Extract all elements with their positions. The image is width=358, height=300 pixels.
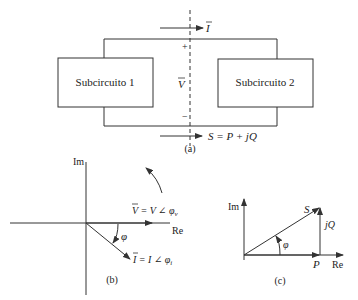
im-axis-label: Im xyxy=(73,156,84,167)
caption-b: (b) xyxy=(106,274,118,286)
caption-c: (c) xyxy=(274,275,285,287)
im-axis-label-c: Im xyxy=(228,201,239,212)
p-label: P xyxy=(312,258,320,270)
minus-sign: − xyxy=(182,111,188,122)
voltage-phasor-label: V = V ∠ φv xyxy=(132,205,179,218)
diagram-canvas: Subcircuito 1 Subcircuito 2 I + V − S = … xyxy=(0,0,358,300)
jq-label: jQ xyxy=(323,219,336,230)
voltage-label: V xyxy=(178,78,186,90)
current-label: I xyxy=(205,22,211,34)
figure-b: Im Re φ V = V ∠ φv I = I ∠ φi (b) xyxy=(10,156,184,295)
rotation-arrow-icon xyxy=(146,168,162,193)
caption-a: (a) xyxy=(184,143,195,155)
angle-label: φ xyxy=(121,230,127,242)
angle-arc-c-icon xyxy=(276,236,280,255)
subcircuit-2-label: Subcircuito 2 xyxy=(236,76,295,88)
re-axis-label: Re xyxy=(172,225,184,236)
current-phasor-label: I = I ∠ φi xyxy=(132,254,172,267)
s-label: S xyxy=(304,203,310,215)
subcircuit-1-label: Subcircuito 1 xyxy=(76,76,135,88)
power-label: S = P + jQ xyxy=(208,130,257,142)
plus-sign: + xyxy=(182,41,188,52)
figure-c: Im Re S jQ P φ (c) xyxy=(228,199,344,287)
angle-label-c: φ xyxy=(283,239,289,250)
re-axis-label-c: Re xyxy=(332,259,344,270)
angle-arc-icon xyxy=(113,224,118,243)
s-vector-arrow-icon xyxy=(244,208,319,255)
figure-a: Subcircuito 1 Subcircuito 2 I + V − S = … xyxy=(58,10,313,155)
